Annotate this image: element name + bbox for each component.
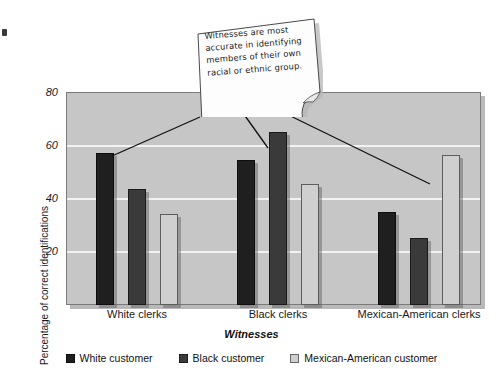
- bar: [410, 238, 428, 305]
- legend-item: Black customer: [179, 352, 265, 364]
- bar: [237, 160, 255, 305]
- legend-swatch: [179, 354, 188, 363]
- legend-swatch: [290, 354, 299, 363]
- bar: [378, 212, 396, 305]
- x-axis-title: Witnesses: [0, 328, 503, 340]
- legend-label: Mexican-American customer: [304, 352, 437, 364]
- x-tick-label: Mexican-American clerks: [358, 308, 481, 320]
- bar-body: [128, 189, 146, 305]
- callout-text: Witnesses are most accurate in identifyi…: [204, 21, 319, 78]
- legend-label: White customer: [80, 352, 153, 364]
- legend-item: Mexican-American customer: [290, 352, 437, 364]
- bars-layer: [66, 92, 481, 305]
- legend-item: White customer: [66, 352, 153, 364]
- bar-body: [442, 155, 460, 305]
- bar-body: [301, 184, 319, 305]
- bar-body: [96, 153, 114, 305]
- page-artifact-mark: [2, 29, 7, 36]
- bar-body: [160, 214, 178, 305]
- bar-body: [378, 212, 396, 305]
- x-tick-label: White clerks: [107, 308, 167, 320]
- legend-swatch: [66, 354, 75, 363]
- bar: [301, 184, 319, 305]
- bar: [160, 214, 178, 305]
- y-tick-label: 80: [46, 87, 58, 98]
- x-tick-label: Black clerks: [249, 308, 308, 320]
- bar: [128, 189, 146, 305]
- x-axis: White clerksBlack clerksMexican-American…: [66, 308, 481, 328]
- y-axis: 80 60 40 20 Percentage of correct identi…: [20, 84, 62, 314]
- bar: [96, 153, 114, 305]
- bar: [442, 155, 460, 305]
- figure: 80 60 40 20 Percentage of correct identi…: [0, 0, 503, 381]
- bar-body: [269, 132, 287, 305]
- callout-note: Witnesses are most accurate in identifyi…: [192, 18, 323, 117]
- legend: White customerBlack customerMexican-Amer…: [0, 352, 503, 364]
- y-tick-label: 60: [46, 140, 58, 151]
- bar-body: [237, 160, 255, 305]
- bar: [269, 132, 287, 305]
- legend-label: Black customer: [193, 352, 265, 364]
- bar-body: [410, 238, 428, 305]
